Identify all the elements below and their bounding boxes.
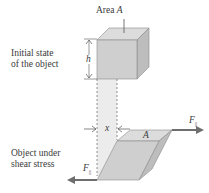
initial-state-line2: of the object xyxy=(11,59,58,70)
shear-stress-label: Object under shear stress xyxy=(11,148,60,170)
area-label-text: Area xyxy=(96,5,117,15)
force-left-label: F|| xyxy=(83,163,91,178)
force-right-subscript: || xyxy=(195,121,197,127)
shear-stress-line1: Object under xyxy=(11,148,60,159)
initial-state-label: Initial state of the object xyxy=(11,48,58,70)
area-label: Area A xyxy=(96,5,123,16)
force-left-subscript: || xyxy=(89,169,91,175)
shear-stress-line2: shear stress xyxy=(11,159,60,170)
initial-cube xyxy=(97,28,149,79)
area-label-var: A xyxy=(117,5,123,15)
initial-state-line1: Initial state xyxy=(11,48,58,59)
displacement-label: x xyxy=(105,123,109,134)
force-arrow-left xyxy=(67,176,97,184)
force-right-label: F|| xyxy=(189,115,197,130)
force-arrow-right xyxy=(172,126,204,134)
cube-front-face xyxy=(97,40,137,79)
top-face-area-label: A xyxy=(143,130,149,141)
height-label: h xyxy=(86,54,91,65)
